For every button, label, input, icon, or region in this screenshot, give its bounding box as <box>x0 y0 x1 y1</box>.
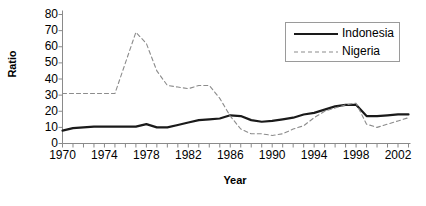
legend-item-indonesia: Indonesia <box>286 24 401 43</box>
x-tick-label: 1982 <box>168 148 208 162</box>
legend-label-nigeria: Nigeria <box>342 44 380 59</box>
x-tick-label: 1998 <box>336 148 376 162</box>
x-axis-title: Year <box>62 174 408 186</box>
x-tick-label: 1978 <box>126 148 166 162</box>
legend-item-nigeria: Nigeria <box>286 42 401 61</box>
series-line-indonesia <box>63 105 409 131</box>
x-tick-label: 2002 <box>378 148 418 162</box>
x-tick-label: 1990 <box>252 148 292 162</box>
legend-swatch-dashed-line <box>292 42 340 61</box>
x-tick-label: 1974 <box>84 148 124 162</box>
x-tick-label: 1994 <box>294 148 334 162</box>
x-tick-label: 1970 <box>43 148 83 162</box>
chart-legend: Indonesia Nigeria <box>285 22 400 62</box>
x-tick-label: 1986 <box>210 148 250 162</box>
legend-swatch-solid-line <box>292 24 340 43</box>
x-axis-tick-labels: 197019741978198219861990199419982002 <box>0 148 426 168</box>
legend-label-indonesia: Indonesia <box>342 26 394 41</box>
ratio-line-chart: Ratio 80706050403020100 1970197419781982… <box>0 0 426 206</box>
